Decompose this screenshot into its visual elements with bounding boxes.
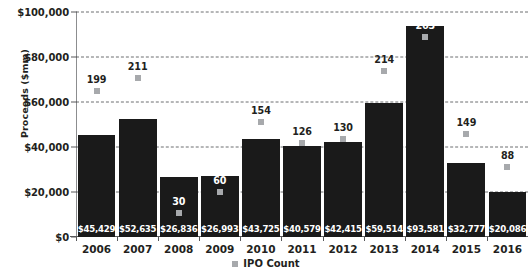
ipo-count-marker-2011 (299, 140, 305, 146)
x-axis-tick-mark (281, 237, 282, 241)
y-axis-tick-label: $80,000 (24, 52, 69, 63)
bar-2016: $20,086 (489, 192, 527, 237)
x-axis-tick-mark (487, 237, 488, 241)
ipo-count-label-2010: 154 (251, 105, 271, 116)
gridline (76, 57, 528, 58)
ipo-count-marker-2007 (135, 75, 141, 81)
ipo-count-label-2011: 126 (292, 126, 312, 137)
x-axis-tick-label-2010: 2010 (240, 243, 281, 255)
y-axis-tick-label: $40,000 (24, 142, 69, 153)
bar-2011: $40,579 (283, 146, 321, 237)
x-axis-tick-mark (117, 237, 118, 241)
ipo-count-label-2006: 199 (87, 74, 107, 85)
bar-value-label: $93,581 (406, 224, 444, 234)
y-axis-tick-label: $60,000 (24, 97, 69, 108)
bar-value-label: $45,429 (78, 224, 116, 234)
x-axis-tick-mark (158, 237, 159, 241)
y-axis-tick-label: $100,000 (17, 7, 69, 18)
x-axis-tick-label-2015: 2015 (446, 243, 487, 255)
bar-value-label: $40,579 (283, 224, 321, 234)
ipo-count-legend-swatch-icon (232, 261, 238, 267)
y-axis-tick-label: $20,000 (24, 187, 69, 198)
ipo-count-label-2007: 211 (128, 61, 148, 72)
ipo-count-marker-2010 (258, 119, 264, 125)
ipo-count-label-2009: 60 (213, 175, 226, 186)
plot-area: $0$20,000$40,000$60,000$80,000$100,000$4… (76, 12, 528, 237)
x-axis-tick-label-2007: 2007 (117, 243, 158, 255)
bar-2014: $93,581 (406, 26, 444, 237)
bar-2013: $59,514 (365, 103, 403, 237)
x-axis-tick-mark (405, 237, 406, 241)
gridline (76, 102, 528, 103)
bar-value-label: $26,836 (160, 224, 198, 234)
x-axis-tick-label-2006: 2006 (76, 243, 117, 255)
ipo-count-marker-2006 (94, 88, 100, 94)
y-axis-tick-mark (71, 192, 77, 193)
bar-value-label: $32,777 (447, 224, 485, 234)
y-axis-tick-mark (71, 57, 77, 58)
ipo-count-marker-2013 (381, 68, 387, 74)
ipo-count-marker-2014 (422, 34, 428, 40)
x-axis-tick-label-2016: 2016 (487, 243, 528, 255)
bar-2007: $52,635 (119, 119, 157, 237)
ipo-count-marker-2008 (176, 210, 182, 216)
x-axis-tick-mark (240, 237, 241, 241)
ipo-count-label-2008: 30 (172, 196, 185, 207)
bar-value-label: $20,086 (489, 224, 527, 234)
bar-2015: $32,777 (447, 163, 485, 237)
chart-legend: IPO Count (0, 258, 532, 269)
x-axis-tick-mark (323, 237, 324, 241)
x-axis-tick-label-2009: 2009 (199, 243, 240, 255)
bar-2012: $42,415 (324, 142, 362, 237)
bar-2010: $43,725 (242, 139, 280, 237)
x-axis-tick-label-2014: 2014 (405, 243, 446, 255)
legend-item-label: IPO Count (243, 258, 299, 269)
ipo-count-marker-2009 (217, 189, 223, 195)
ipo-count-label-2015: 149 (456, 117, 476, 128)
ipo-count-label-2013: 214 (374, 54, 394, 65)
ipo-count-marker-2015 (463, 131, 469, 137)
bar-value-label: $52,635 (119, 224, 157, 234)
ipo-count-marker-2016 (504, 164, 510, 170)
x-axis-tick-mark (364, 237, 365, 241)
bar-value-label: $59,514 (365, 224, 403, 234)
bar-value-label: $43,725 (242, 224, 280, 234)
y-axis-tick-label: $0 (55, 232, 69, 243)
ipo-count-label-2014: 263 (415, 20, 435, 31)
ipo-count-label-2012: 130 (333, 122, 353, 133)
y-axis-tick-mark (71, 12, 77, 13)
gridline (76, 12, 528, 13)
y-axis-tick-mark (71, 102, 77, 103)
x-axis-tick-mark (76, 237, 77, 241)
x-axis-tick-label-2013: 2013 (364, 243, 405, 255)
x-axis-tick-label-2008: 2008 (158, 243, 199, 255)
y-axis-tick-mark (71, 147, 77, 148)
ipo-count-label-2016: 88 (501, 150, 514, 161)
x-axis-tick-mark (199, 237, 200, 241)
bar-value-label: $42,415 (324, 224, 362, 234)
bar-2006: $45,429 (78, 135, 116, 237)
ipo-proceeds-chart: Proceeds ($mm) $0$20,000$40,000$60,000$8… (0, 0, 532, 271)
x-axis-tick-label-2011: 2011 (281, 243, 322, 255)
ipo-count-marker-2012 (340, 136, 346, 142)
bar-value-label: $26,993 (201, 224, 239, 234)
x-axis-tick-mark (446, 237, 447, 241)
x-axis-tick-label-2012: 2012 (323, 243, 364, 255)
